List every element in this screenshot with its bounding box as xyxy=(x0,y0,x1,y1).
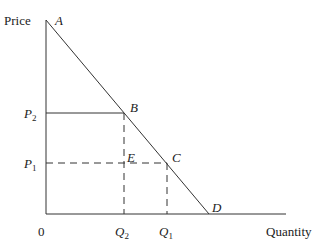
demand-curve xyxy=(46,20,209,214)
point-label-e: E xyxy=(126,150,135,165)
x-tick-q1: Q1 xyxy=(159,224,173,241)
y-axis-label: Price xyxy=(4,13,31,28)
point-label-d: D xyxy=(211,200,222,215)
point-label-b: B xyxy=(130,100,138,115)
x-axis-label: Quantity xyxy=(266,224,312,239)
y-tick-p1: P1 xyxy=(23,156,36,173)
origin-label: 0 xyxy=(38,224,45,239)
point-label-a: A xyxy=(54,13,63,28)
x-tick-q2: Q2 xyxy=(115,224,129,241)
point-label-c: C xyxy=(172,150,181,165)
y-tick-p2: P2 xyxy=(23,106,36,123)
demand-chart: Price Quantity 0 A B C D E P2 P1 Q2 Q1 xyxy=(0,0,325,252)
